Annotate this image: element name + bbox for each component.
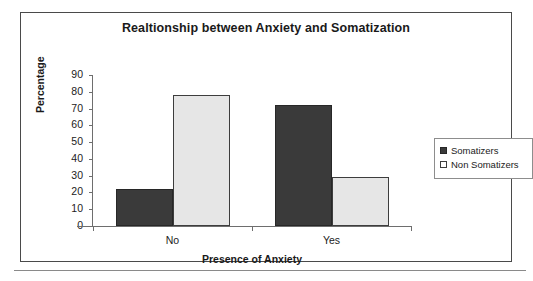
y-axis-tick-label: 0 bbox=[77, 219, 83, 231]
y-axis-tick-label: 20 bbox=[71, 185, 83, 197]
y-axis-tick-label: 30 bbox=[71, 169, 83, 181]
x-axis-category-label: Yes bbox=[252, 234, 411, 246]
x-axis-category-label: No bbox=[93, 234, 252, 246]
page-bottom-rule bbox=[14, 270, 526, 271]
plot-area bbox=[93, 75, 411, 226]
x-axis-tick-mark bbox=[93, 226, 94, 231]
legend-item-non-somatizers[interactable]: Non Somatizers bbox=[440, 159, 528, 170]
x-axis-title: Presence of Anxiety bbox=[93, 253, 411, 265]
chart-frame: Realtionship between Anxiety and Somatiz… bbox=[20, 12, 512, 262]
legend-item-somatizers[interactable]: Somatizers bbox=[440, 145, 528, 156]
legend-item-label: Non Somatizers bbox=[451, 159, 519, 170]
bar-yes-somatizers bbox=[275, 105, 332, 226]
y-axis-tick-label: 90 bbox=[71, 68, 83, 80]
y-axis-ticks: 9080706050403020100 bbox=[49, 75, 93, 226]
chart-legend: SomatizersNon Somatizers bbox=[434, 138, 533, 179]
bar-yes-non-somatizers bbox=[332, 177, 389, 226]
legend-swatch-icon bbox=[440, 161, 447, 168]
y-axis-tick-label: 50 bbox=[71, 135, 83, 147]
y-axis-tick-label: 60 bbox=[71, 118, 83, 130]
y-axis-tick-label: 80 bbox=[71, 85, 83, 97]
y-axis-tick-label: 40 bbox=[71, 152, 83, 164]
legend-item-label: Somatizers bbox=[451, 145, 499, 156]
bar-no-somatizers bbox=[116, 189, 173, 226]
y-axis-title: Percentage bbox=[34, 56, 46, 113]
x-axis-tick-mark bbox=[411, 226, 412, 231]
chart-title: Realtionship between Anxiety and Somatiz… bbox=[21, 21, 511, 35]
x-axis-line bbox=[77, 226, 411, 227]
bar-no-non-somatizers bbox=[173, 95, 230, 226]
x-axis-tick-mark bbox=[252, 226, 253, 231]
y-axis-tick-label: 70 bbox=[71, 102, 83, 114]
legend-swatch-icon bbox=[440, 147, 447, 154]
y-axis-tick-label: 10 bbox=[71, 202, 83, 214]
